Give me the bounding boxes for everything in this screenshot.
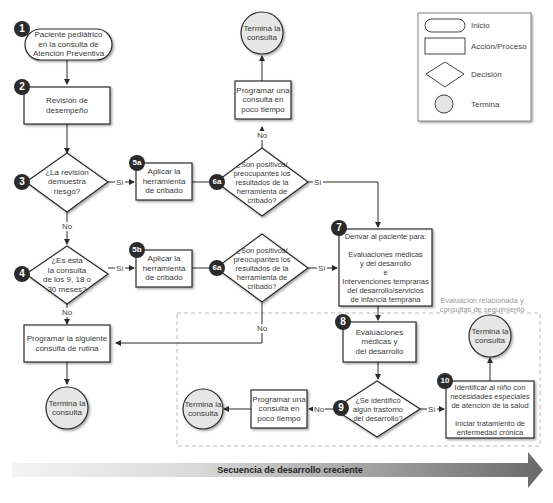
step-badge-6a-top: 6a: [209, 174, 225, 190]
edge-label-3-no: No: [61, 222, 73, 231]
box-5a-text: Aplicar la herramienta de cribado: [136, 163, 192, 200]
step-badge-8: 8: [335, 314, 351, 330]
end-top-text: Termina la consulta: [241, 12, 283, 54]
legend-label-decision: Decisión: [471, 70, 502, 79]
box-7-text: Derivar al paciente para: Evaluaciones m…: [339, 229, 432, 306]
end-bottom-text: Termina la consulta: [183, 389, 223, 429]
decision-6a-bottom-text: ¿Son positivos/ preocupantes los resulta…: [222, 243, 302, 293]
edge-label-9-yes: Sí: [427, 405, 437, 414]
edge-label-3-yes: Sí: [115, 178, 125, 187]
end-right-text: Termina la consulta: [469, 315, 511, 357]
decision-4-text: ¿Es ésta la consulta de los 9, 18 o 30 m…: [36, 252, 98, 298]
step-badge-9: 9: [333, 400, 349, 416]
step-badge-5b: 5b: [129, 242, 145, 258]
edge-label-4-yes: Sí: [115, 264, 125, 273]
step-badge-5a: 5a: [129, 155, 145, 171]
performance-review-text: Revisión de desempeño: [24, 87, 110, 124]
followup-region-title: Evaluación relacionada y consultas de se…: [422, 296, 542, 314]
development-arrow-label: Secuencia de desarrollo creciente: [190, 464, 390, 476]
edge-label-4-no: No: [61, 308, 73, 317]
step-badge-3: 3: [14, 174, 30, 190]
start-node-text: Paciente pediátrico en la consulta de At…: [25, 29, 112, 60]
step-badge-4: 4: [14, 266, 30, 282]
box-8-text: Evaluaciones médicas y del desarrollo: [343, 322, 416, 362]
box-5b-text: Aplicar la herramienta de cribado: [136, 250, 192, 287]
edge-label-6a-bottom-yes: Sí: [317, 264, 327, 273]
decision-6a-top-text: ¿Son positivos/ preocupantes los resulta…: [222, 157, 302, 207]
flowchart-canvas: Inicio Acción/Proceso Decisión Termina P…: [0, 0, 553, 503]
legend-label-start: Inicio: [471, 21, 490, 30]
legend-label-process: Acción/Proceso: [471, 42, 527, 51]
decision-9-text: ¿Se identificó algún trastorno del desar…: [345, 392, 411, 426]
edge-label-6a-top-no: No: [256, 131, 268, 140]
step-badge-2: 2: [14, 79, 30, 95]
step-badge-10: 10: [437, 373, 453, 389]
legend-label-end: Termina: [471, 100, 499, 109]
schedule-routine-text: Programar la siguiente consulta de rutin…: [24, 325, 110, 362]
step-badge-1: 1: [14, 21, 30, 37]
step-badge-7: 7: [331, 220, 347, 236]
decision-3-text: ¿La revisión demuestra riesgo?: [36, 160, 98, 204]
step-badge-6a-bottom: 6a: [209, 260, 225, 276]
schedule-soon-bottom-text: Programar una consulta en poco tiempo: [251, 390, 307, 428]
edge-label-6a-bottom-no: No: [256, 324, 268, 333]
edge-label-6a-top-yes: Sí: [313, 178, 323, 187]
schedule-soon-top-text: Programar una consulta en poco tiempo: [235, 81, 291, 119]
end-left-text: Termina la consulta: [46, 387, 88, 429]
box-10-text: Identificar al niño con necesidades espe…: [446, 381, 534, 438]
edge-label-9-no: No: [313, 405, 325, 414]
